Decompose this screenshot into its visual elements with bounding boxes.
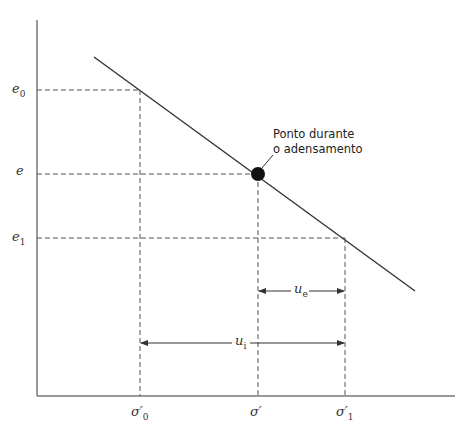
label-ui: ui: [235, 334, 246, 351]
label-e0: e0: [12, 82, 25, 99]
label-ue: ue: [294, 282, 308, 299]
point-annotation: Ponto durante o adensamento: [273, 127, 363, 157]
label-e1: e1: [12, 230, 25, 247]
label-e: e: [16, 164, 24, 177]
consolidation-point: [251, 167, 265, 181]
annotation-leader: [262, 155, 273, 168]
label-sigma1: σ′1: [336, 405, 354, 422]
label-sigma0: σ′0: [131, 405, 149, 422]
label-sigma: σ′: [250, 405, 262, 418]
consolidation-diagram: [0, 0, 474, 430]
